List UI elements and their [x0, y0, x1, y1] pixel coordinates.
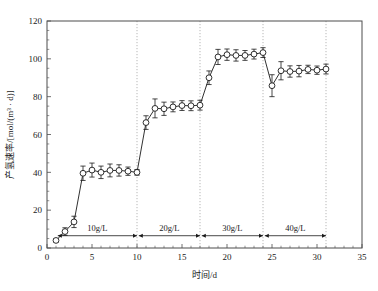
- y-axis-tick-label: 0: [38, 243, 43, 253]
- data-point-marker: [269, 83, 275, 89]
- data-point-marker: [251, 51, 257, 57]
- data-point-marker: [215, 54, 221, 60]
- phase-concentration-label: 10g/L: [87, 223, 107, 233]
- x-axis-title: 时间/d: [192, 269, 218, 280]
- plot-frame: [47, 21, 362, 248]
- data-point-marker: [224, 52, 230, 58]
- axis-ticks-group: [47, 21, 362, 248]
- x-axis-tick-label: 15: [178, 252, 188, 262]
- data-point-marker: [179, 103, 185, 109]
- phase-span-arrow-left: [202, 234, 206, 238]
- data-point-marker: [287, 69, 293, 75]
- data-point-marker: [116, 168, 122, 174]
- data-point-marker: [314, 67, 320, 73]
- x-axis-tick-label: 20: [223, 252, 233, 262]
- data-point-marker: [260, 50, 266, 56]
- phase-span-arrow-left: [265, 234, 269, 238]
- x-axis-tick-label: 30: [313, 252, 323, 262]
- phase-concentration-label: 40g/L: [285, 223, 305, 233]
- data-point-marker: [206, 75, 212, 81]
- data-point-marker: [242, 53, 248, 59]
- data-point-marker: [134, 169, 140, 175]
- data-point-marker: [107, 168, 113, 174]
- series-line: [56, 53, 326, 241]
- phase-concentration-label: 20g/L: [159, 223, 179, 233]
- phase-span-arrow-left: [139, 234, 143, 238]
- x-axis-tick-label: 10: [133, 252, 143, 262]
- data-point-marker: [305, 67, 311, 73]
- y-axis-tick-label: 20: [33, 205, 43, 215]
- y-axis-tick-label: 80: [33, 92, 43, 102]
- data-point-marker: [89, 167, 95, 173]
- data-series-group: [53, 48, 329, 244]
- y-axis-title: 产氢速率/[mol/(m³ · d)]: [4, 90, 15, 179]
- data-point-marker: [197, 102, 203, 108]
- x-axis-tick-label: 25: [268, 252, 278, 262]
- x-axis-tick-label: 5: [90, 252, 95, 262]
- y-axis-tick-label: 120: [29, 16, 43, 26]
- phase-span-arrow-right: [133, 234, 137, 238]
- data-point-marker: [161, 106, 167, 112]
- chart-figure: 10g/L20g/L30g/L40g/L 0510152025303502040…: [0, 0, 378, 291]
- y-axis-tick-label: 40: [33, 168, 43, 178]
- phase-span-arrow-right: [322, 234, 326, 238]
- y-axis-tick-label: 100: [29, 54, 43, 64]
- phase-span-arrow-right: [259, 234, 263, 238]
- phase-annotations-group: 10g/L20g/L30g/L40g/L: [58, 223, 326, 238]
- x-axis-tick-label: 35: [358, 252, 368, 262]
- data-point-marker: [278, 68, 284, 74]
- data-point-marker: [125, 168, 131, 174]
- data-point-marker: [188, 103, 194, 109]
- hydrogen-production-rate-chart: 10g/L20g/L30g/L40g/L 0510152025303502040…: [0, 0, 378, 291]
- data-point-marker: [233, 53, 239, 59]
- data-point-marker: [53, 238, 59, 244]
- phase-concentration-label: 30g/L: [222, 223, 242, 233]
- data-point-marker: [143, 120, 149, 126]
- data-point-marker: [152, 105, 158, 111]
- data-point-marker: [80, 170, 86, 176]
- data-point-marker: [98, 169, 104, 175]
- axis-labels-group: 05101520253035020406080100120: [29, 16, 368, 262]
- data-point-marker: [296, 68, 302, 74]
- phase-span-arrow-right: [196, 234, 200, 238]
- y-axis-tick-label: 60: [33, 130, 43, 140]
- data-point-marker: [323, 66, 329, 72]
- x-axis-tick-label: 0: [45, 252, 50, 262]
- data-point-marker: [62, 229, 68, 235]
- data-point-marker: [71, 219, 77, 225]
- data-point-marker: [170, 104, 176, 110]
